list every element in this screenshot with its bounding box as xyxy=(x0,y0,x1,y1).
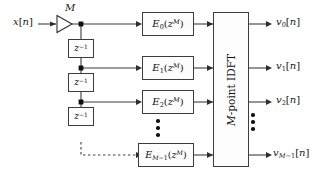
idft-block-label: M-point IDFT xyxy=(225,54,237,126)
junction-dot-1 xyxy=(79,66,84,71)
idft-ellipsis-dot-2 xyxy=(251,120,255,124)
delay-block-2-label: z−1 xyxy=(74,77,88,87)
polyphase-filter-0-label: E0(zM) xyxy=(152,18,183,31)
idft-block: M-point IDFT xyxy=(213,12,249,167)
delay-block-1-label: z−1 xyxy=(74,43,88,53)
filters-ellipsis-dot-3 xyxy=(156,133,160,137)
junction-dot-0 xyxy=(79,22,84,27)
delay-block-3: z−1 xyxy=(68,107,94,126)
polyphase-filter-2: E2(zM) xyxy=(142,90,194,114)
arrowhead-out-0 xyxy=(266,21,272,27)
output-label-2: v2[n] xyxy=(276,95,300,106)
polyphase-filter-0: E0(zM) xyxy=(142,12,194,36)
idft-ellipsis-dot-1 xyxy=(251,113,255,117)
downsample-factor-label: M xyxy=(65,3,75,13)
filters-ellipsis-dot-1 xyxy=(156,119,160,123)
idft-ellipsis-dot-3 xyxy=(251,127,255,131)
polyphase-idft-block-diagram: x[n] M z−1 z−1 z−1 E0(zM) E1(zM) E2(zM) … xyxy=(0,0,314,173)
polyphase-filter-m-1-label: EM−1(zM) xyxy=(145,149,186,161)
polyphase-filter-2-label: E2(zM) xyxy=(152,96,183,109)
arrowhead-out-3 xyxy=(266,152,272,158)
delay-block-2: z−1 xyxy=(68,73,94,92)
polyphase-filter-1-label: E1(zM) xyxy=(152,62,183,75)
output-label-0: v0[n] xyxy=(276,17,300,28)
delay-block-3-label: z−1 xyxy=(74,111,88,121)
arrowhead-out-2 xyxy=(266,99,272,105)
output-label-1: v1[n] xyxy=(276,61,300,72)
filters-ellipsis-dot-2 xyxy=(156,126,160,130)
polyphase-filter-m-1: EM−1(zM) xyxy=(138,143,194,167)
junction-dot-2 xyxy=(79,100,84,105)
downsampler-triangle xyxy=(57,16,72,33)
delay-block-1: z−1 xyxy=(68,39,94,58)
polyphase-filter-1: E1(zM) xyxy=(142,56,194,80)
input-label: x[n] xyxy=(13,17,33,27)
arrowhead-out-1 xyxy=(266,65,272,71)
output-label-m-1: vM−1[n] xyxy=(273,148,309,159)
wire-dashed-continuation xyxy=(81,142,136,155)
